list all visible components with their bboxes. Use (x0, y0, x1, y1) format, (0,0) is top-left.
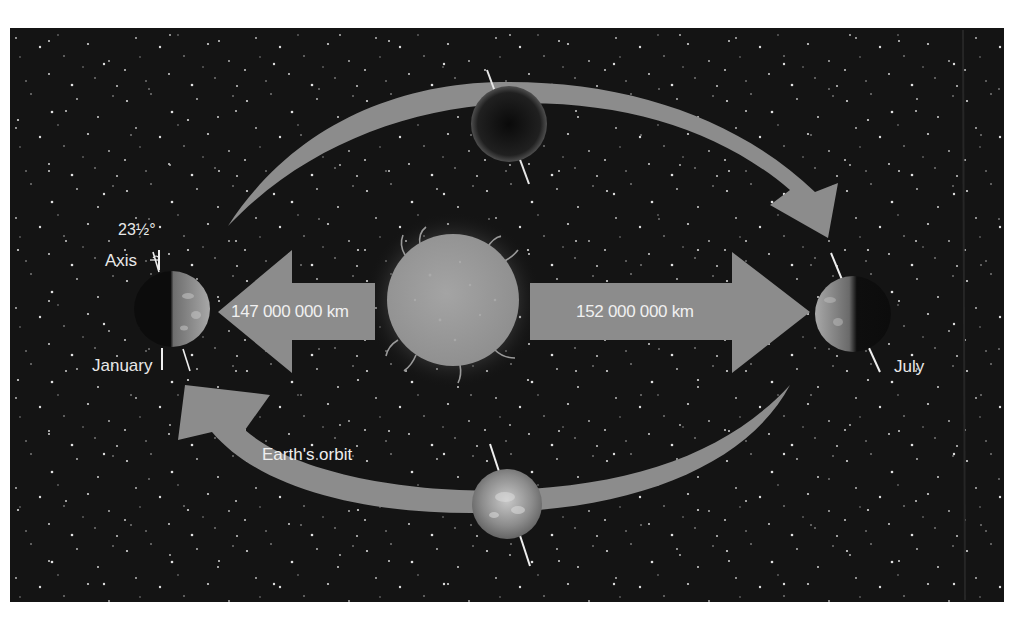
aphelion-distance-label: 152 000 000 km (576, 303, 694, 320)
axis-label: Axis (105, 252, 137, 269)
sun (365, 212, 541, 388)
orbit-label: Earth's orbit (262, 446, 352, 463)
january-label: January (92, 357, 152, 374)
tilt-angle-label: 23½° (118, 222, 156, 238)
july-label: July (894, 358, 924, 375)
orbit-diagram (0, 0, 1017, 620)
perihelion-distance-label: 147 000 000 km (231, 303, 349, 320)
